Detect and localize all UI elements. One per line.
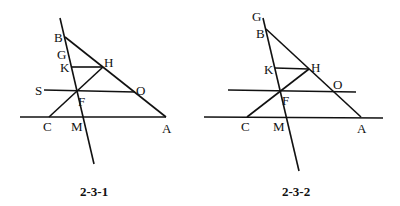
label-H: H	[104, 55, 113, 70]
geometry-figures: B G K H S O F C M A 2-3-1 G B K H O F C …	[0, 0, 400, 206]
label-A: A	[162, 121, 172, 136]
figure-2-3-2: G B K H O F C M A 2-3-2	[204, 9, 383, 199]
line-CH	[49, 67, 103, 117]
label-G: G	[252, 9, 261, 24]
label-B: B	[256, 26, 265, 41]
line-KH	[275, 68, 309, 69]
label-A: A	[357, 121, 367, 136]
line-CH	[247, 69, 309, 117]
label-C: C	[43, 119, 52, 134]
base-line	[204, 117, 383, 118]
label-B: B	[54, 30, 63, 45]
label-M: M	[273, 119, 285, 134]
label-K: K	[264, 62, 274, 77]
caption-2-3-2: 2-3-2	[282, 184, 310, 199]
label-K: K	[60, 60, 70, 75]
transversal-line	[263, 18, 299, 171]
label-C: C	[241, 119, 250, 134]
figure-2-3-1: B G K H S O F C M A 2-3-1	[20, 18, 172, 199]
label-O: O	[136, 83, 145, 98]
caption-2-3-1: 2-3-1	[80, 184, 108, 199]
label-F: F	[78, 94, 85, 109]
label-S: S	[35, 83, 42, 98]
line-SO	[44, 90, 135, 92]
label-H: H	[311, 60, 320, 75]
label-M: M	[71, 119, 83, 134]
label-O: O	[333, 77, 342, 92]
label-F: F	[282, 93, 289, 108]
